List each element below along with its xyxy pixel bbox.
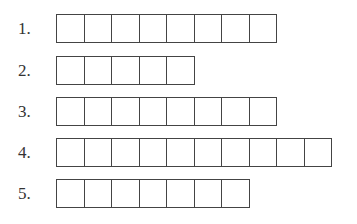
answer-box [85,180,113,207]
answer-box [195,15,223,42]
answer-box [250,98,277,125]
answer-box [140,139,168,166]
answer-box [195,180,223,207]
answer-box [250,15,277,42]
answer-box [167,180,195,207]
box-strip [56,179,250,208]
box-strip [56,138,332,167]
answer-box [57,57,85,84]
answer-box [195,98,223,125]
answer-box [85,57,113,84]
answer-box [112,180,140,207]
box-strip [56,14,277,43]
answer-box [112,15,140,42]
answer-box [57,180,85,207]
answer-box [57,98,85,125]
row-number: 5. [18,184,31,204]
answer-box [140,180,168,207]
answer-box [195,139,223,166]
answer-box [250,139,278,166]
row-number: 3. [18,102,31,122]
answer-box [85,139,113,166]
box-strip [56,97,277,126]
answer-box [85,98,113,125]
answer-box [57,139,85,166]
answer-box [222,98,250,125]
answer-box [305,139,332,166]
row-number: 2. [18,61,31,81]
answer-box [140,98,168,125]
answer-box [277,139,305,166]
row-number: 1. [18,19,31,39]
answer-box [222,180,249,207]
row-number: 4. [18,143,31,163]
answer-box [222,139,250,166]
box-strip [56,56,195,85]
answer-box [167,98,195,125]
answer-box [112,98,140,125]
answer-box [167,15,195,42]
answer-box [112,139,140,166]
answer-box [167,139,195,166]
answer-box [140,15,168,42]
answer-box [85,15,113,42]
answer-box [167,57,194,84]
answer-box [57,15,85,42]
answer-box [222,15,250,42]
answer-box [140,57,168,84]
answer-box [112,57,140,84]
